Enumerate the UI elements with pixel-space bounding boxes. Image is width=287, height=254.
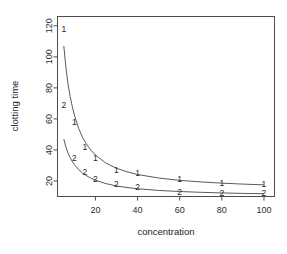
y-tick-label-120: 120	[45, 18, 55, 33]
y-axis-title: clotting time	[9, 81, 20, 132]
chart-background	[0, 0, 287, 254]
data-point-2-30: 2	[114, 179, 119, 189]
data-point-1-5: 1	[61, 24, 66, 34]
data-point-1-20: 1	[93, 153, 98, 163]
data-point-1-15: 1	[83, 142, 88, 152]
y-tick-label-40: 40	[45, 145, 55, 155]
data-point-1-40: 1	[135, 168, 140, 178]
y-tick-label-100: 100	[45, 49, 55, 64]
y-tick-label-20: 20	[45, 176, 55, 186]
x-tick-label-80: 80	[217, 205, 227, 215]
y-tick-label-60: 60	[45, 114, 55, 124]
y-tick-label-80: 80	[45, 83, 55, 93]
data-point-2-10: 2	[72, 153, 77, 163]
x-tick-label-100: 100	[256, 205, 271, 215]
plot-canvas: 20406080100120 20406080100 1111111112222…	[0, 0, 287, 254]
data-point-2-15: 2	[83, 167, 88, 177]
data-point-2-80: 2	[219, 188, 224, 198]
data-point-2-20: 2	[93, 174, 98, 184]
x-tick-label-20: 20	[90, 205, 100, 215]
data-point-1-30: 1	[114, 165, 119, 175]
x-tick-label-60: 60	[175, 205, 185, 215]
data-point-2-40: 2	[135, 182, 140, 192]
data-point-2-5: 2	[61, 100, 66, 110]
x-tick-label-40: 40	[133, 205, 143, 215]
chart-figure: 20406080100120 20406080100 1111111112222…	[0, 0, 287, 254]
data-point-1-60: 1	[177, 174, 182, 184]
data-point-1-80: 1	[219, 178, 224, 188]
x-axis-title: concentration	[137, 226, 194, 237]
data-point-1-10: 1	[72, 117, 77, 127]
data-point-2-100: 2	[262, 188, 267, 198]
data-point-2-60: 2	[177, 187, 182, 197]
